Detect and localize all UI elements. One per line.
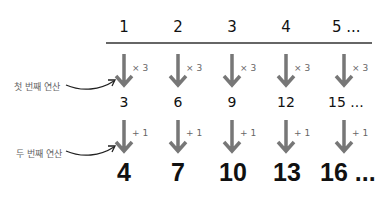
second-operation-label: 두 번째 연산 bbox=[16, 147, 62, 160]
output-value: 10 bbox=[216, 158, 250, 187]
down-arrow-icon bbox=[276, 54, 296, 88]
output-value: 13 bbox=[270, 158, 304, 187]
down-arrow-icon bbox=[222, 120, 242, 154]
output-value: 16 ... bbox=[320, 158, 388, 187]
input-value: 2 bbox=[168, 18, 188, 36]
multiply-op: × 3 bbox=[132, 63, 148, 73]
add-op: + 1 bbox=[352, 128, 368, 138]
multiply-op: × 3 bbox=[186, 63, 202, 73]
down-arrow-icon bbox=[168, 54, 188, 88]
first-operation-label: 첫 번째 연산 bbox=[14, 80, 60, 93]
multiply-op: × 3 bbox=[294, 63, 310, 73]
output-value: 7 bbox=[166, 158, 190, 187]
curved-arrow-icon bbox=[64, 76, 118, 92]
add-op: + 1 bbox=[132, 128, 148, 138]
down-arrow-icon bbox=[334, 54, 354, 88]
input-value: 1 bbox=[114, 18, 134, 36]
output-value: 4 bbox=[112, 158, 136, 187]
middle-value: 3 bbox=[114, 94, 134, 110]
down-arrow-icon bbox=[334, 120, 354, 154]
middle-value: 9 bbox=[222, 94, 242, 110]
multiply-op: × 3 bbox=[240, 63, 256, 73]
input-value: 5 ... bbox=[332, 18, 372, 36]
middle-value: 15 ... bbox=[328, 94, 378, 110]
middle-value: 12 bbox=[272, 94, 300, 110]
input-value: 4 bbox=[276, 18, 296, 36]
curved-arrow-icon bbox=[64, 142, 118, 158]
input-value: 3 bbox=[222, 18, 242, 36]
add-op: + 1 bbox=[294, 128, 310, 138]
down-arrow-icon bbox=[222, 54, 242, 88]
multiply-op: × 3 bbox=[352, 63, 368, 73]
down-arrow-icon bbox=[276, 120, 296, 154]
middle-value: 6 bbox=[168, 94, 188, 110]
divider-line bbox=[106, 42, 372, 44]
down-arrow-icon bbox=[168, 120, 188, 154]
add-op: + 1 bbox=[240, 128, 256, 138]
add-op: + 1 bbox=[186, 128, 202, 138]
